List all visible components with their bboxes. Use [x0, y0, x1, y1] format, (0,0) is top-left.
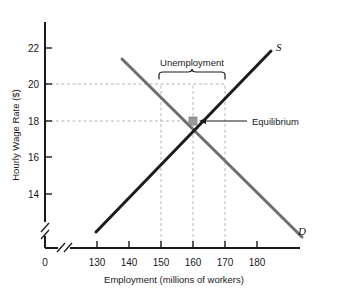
- y-tick-label-14: 14: [28, 189, 40, 200]
- x-axis-label: Employment (millions of workers): [104, 274, 244, 285]
- chart-figure: 22 20 18 16 14 0 130 140 150 160 170 180…: [0, 0, 342, 293]
- x-tick-label-170: 170: [217, 257, 234, 268]
- x-tick-label-150: 150: [153, 257, 170, 268]
- equilibrium-label: Equilibrium: [252, 116, 299, 127]
- y-tick-label-22: 22: [28, 43, 40, 54]
- y-tick-label-18: 18: [28, 116, 40, 127]
- supply-demand-chart: 22 20 18 16 14 0 130 140 150 160 170 180…: [0, 0, 342, 293]
- x-tick-label-130: 130: [89, 257, 106, 268]
- equilibrium-marker: [189, 117, 197, 125]
- y-axis-label: Hourly Wage Rate ($): [10, 89, 21, 181]
- demand-curve-label: D: [297, 225, 306, 237]
- unemployment-label: Unemployment: [160, 57, 224, 68]
- y-tick-label-16: 16: [28, 152, 40, 163]
- supply-curve-label: S: [276, 41, 282, 53]
- chart-background: [0, 0, 342, 293]
- x-tick-label-160: 160: [185, 257, 202, 268]
- origin-label: 0: [42, 257, 48, 268]
- x-tick-label-180: 180: [249, 257, 266, 268]
- x-tick-label-140: 140: [121, 257, 138, 268]
- y-tick-label-20: 20: [28, 79, 40, 90]
